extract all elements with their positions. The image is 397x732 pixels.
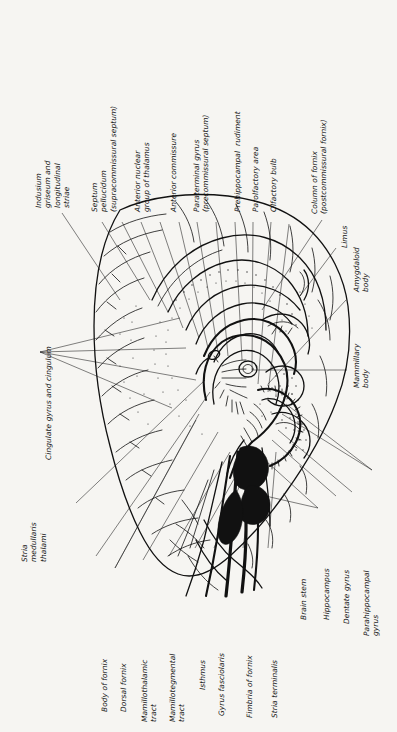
label-paraterminal-gyrus: Paraterminal gyrus (precommissural septu… — [192, 114, 211, 212]
label-mamillothalamic-tract: Mamillothalamic tract — [140, 660, 159, 722]
label-isthmus: Isthmus — [198, 660, 207, 690]
label-mamillotegmental-tract: Mamillotegmental tract — [168, 654, 187, 722]
brain-illustration — [0, 0, 397, 732]
label-septum-pellucidum: Septum pellucidum (supracommissural sept… — [90, 106, 118, 212]
label-brain-stem: Brain stem — [299, 579, 308, 620]
label-stria-medullaris: Stria medullaris thalami — [20, 522, 48, 562]
label-mammillary-body: Mammillary body — [352, 344, 371, 388]
label-anterior-nuclear-group: Anterior nuclear group of thalamus — [133, 142, 152, 212]
label-stria-terminalis: Stria terminalis — [270, 660, 279, 718]
label-anterior-commissure: Anterior commissure — [169, 133, 178, 212]
label-body-of-fornix: Body of fornix — [100, 659, 109, 712]
label-dorsal-fornix: Dorsal fornix — [119, 663, 128, 712]
label-fimbria-of-fornix: Fimbria of fornix — [245, 655, 254, 718]
label-hippocampus: Hippocampus — [322, 568, 331, 620]
label-parolfactory-area: Parolfactory area — [251, 147, 260, 212]
label-indusium-griseum: Indusium griseum and longitudinal striae — [34, 161, 72, 208]
anatomical-figure: Indusium griseum and longitudinal striae… — [0, 0, 397, 732]
brain-stem — [170, 446, 270, 596]
label-prehippocampal-rudiment: Prehippocampal rudiment — [233, 111, 242, 212]
label-gyrus-fasciolaris: Gyrus fasciolaris — [217, 653, 226, 716]
label-parahippocampal-gyrus: Parahippocampal gyrus — [362, 570, 381, 636]
label-cingulate-gyrus: Cingulate gyrus and cingulum — [44, 346, 53, 460]
label-column-of-fornix: Column of fornix (postcommissural fornix… — [310, 119, 329, 214]
leader-lines — [40, 213, 372, 568]
label-dentate-gyrus: Dentate gyrus — [342, 570, 351, 624]
thalamic-fiber-plexus — [214, 356, 247, 414]
label-amygdaloid-body: Amygdaloid body — [352, 247, 371, 292]
label-olfactory-bulb: Olfactory bulb — [269, 158, 278, 212]
label-limus: Limus — [340, 226, 349, 248]
